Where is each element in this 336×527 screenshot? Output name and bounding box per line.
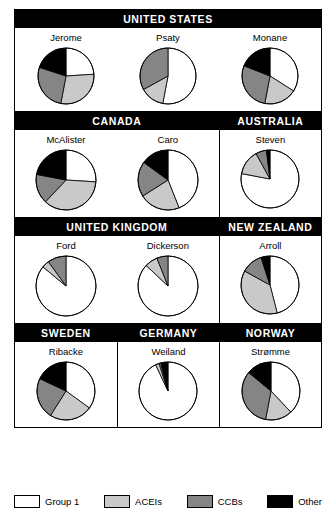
pie-chart: [139, 47, 197, 105]
study-strip: Steven: [220, 130, 321, 217]
legend: Group 1ACEIsCCBsOther: [14, 495, 322, 508]
country-header: NEW ZEALAND: [220, 218, 321, 236]
study-strip: JeromePsatyMonane: [15, 28, 321, 111]
country-block-germany: GERMANYWeiland: [117, 324, 219, 427]
legend-swatch-group1: [14, 495, 40, 508]
legend-label: ACEIs: [135, 496, 162, 507]
pie-wrap: [37, 47, 95, 105]
study-cell: Monane: [219, 28, 321, 111]
study-cell: Strømme: [220, 342, 321, 427]
study-label: Jerome: [50, 32, 82, 44]
country-header: UNITED STATES: [15, 10, 321, 28]
study-label: McAlister: [46, 134, 85, 146]
country-block-united-states: UNITED STATESJeromePsatyMonane: [15, 10, 321, 111]
country-row: SWEDENRibackeGERMANYWeilandNORWAYStrømme: [15, 323, 321, 427]
study-label: Ribacke: [49, 346, 83, 358]
pie-wrap: [36, 361, 96, 421]
study-cell: Ford: [15, 236, 117, 323]
study-label: Caro: [158, 134, 179, 146]
pie-chart: [137, 255, 199, 317]
pie-wrap: [240, 255, 300, 315]
study-label: Steven: [256, 134, 286, 146]
legend-label: Group 1: [45, 496, 79, 507]
pie-chart: [241, 47, 299, 105]
study-label: Weiland: [151, 346, 185, 358]
country-panel-grid: UNITED STATESJeromePsatyMonaneCANADAMcAl…: [14, 9, 322, 428]
pie-slice: [36, 150, 65, 180]
study-strip: McAlisterCaro: [15, 130, 219, 217]
pie-wrap: [35, 149, 97, 211]
study-cell: Weiland: [118, 342, 219, 427]
legend-item-ccb: CCBs: [187, 495, 243, 508]
study-label: Monane: [253, 32, 287, 44]
study-cell: Caro: [117, 130, 219, 217]
legend-swatch-other: [267, 495, 293, 508]
legend-label: CCBs: [218, 496, 243, 507]
pie-wrap: [241, 47, 299, 105]
pie-chart: [35, 255, 97, 317]
country-block-norway: NORWAYStrømme: [219, 324, 321, 427]
legend-item-group1: Group 1: [14, 495, 79, 508]
country-header: GERMANY: [118, 324, 219, 342]
country-block-new-zealand: NEW ZEALANDArroll: [219, 218, 321, 323]
pie-chart: [138, 361, 198, 421]
pie-wrap: [240, 149, 300, 209]
pie-wrap: [137, 149, 199, 211]
study-cell: Ribacke: [15, 342, 117, 427]
pie-wrap: [241, 361, 301, 421]
country-row: CANADAMcAlisterCaroAUSTRALIASteven: [15, 111, 321, 217]
country-header: SWEDEN: [15, 324, 117, 342]
study-strip: Weiland: [118, 342, 219, 427]
legend-swatch-ccb: [187, 495, 213, 508]
country-block-canada: CANADAMcAlisterCaro: [15, 112, 219, 217]
legend-label: Other: [298, 496, 322, 507]
pie-wrap: [137, 255, 199, 317]
pie-slice: [66, 150, 96, 182]
study-cell: Jerome: [15, 28, 117, 111]
study-strip: Strømme: [220, 342, 321, 427]
country-header: CANADA: [15, 112, 219, 130]
country-header: NORWAY: [220, 324, 321, 342]
legend-swatch-acei: [104, 495, 130, 508]
figure-panel: UNITED STATESJeromePsatyMonaneCANADAMcAl…: [0, 0, 336, 527]
study-label: Strømme: [251, 346, 290, 358]
country-header: AUSTRALIA: [220, 112, 321, 130]
study-strip: Arroll: [220, 236, 321, 323]
study-cell: Psaty: [117, 28, 219, 111]
country-block-australia: AUSTRALIASteven: [219, 112, 321, 217]
study-strip: Ribacke: [15, 342, 117, 427]
study-cell: Dickerson: [117, 236, 219, 323]
country-block-united-kingdom: UNITED KINGDOMFordDickerson: [15, 218, 219, 323]
pie-wrap: [138, 361, 198, 421]
country-row: UNITED STATESJeromePsatyMonane: [15, 10, 321, 111]
pie-chart: [240, 149, 300, 209]
country-row: UNITED KINGDOMFordDickersonNEW ZEALANDAr…: [15, 217, 321, 323]
pie-chart: [137, 149, 199, 211]
study-cell: McAlister: [15, 130, 117, 217]
study-label: Arroll: [259, 240, 281, 252]
study-cell: Arroll: [220, 236, 321, 323]
study-label: Dickerson: [147, 240, 189, 252]
pie-wrap: [139, 47, 197, 105]
study-strip: FordDickerson: [15, 236, 219, 323]
pie-chart: [241, 361, 301, 421]
pie-chart: [36, 361, 96, 421]
pie-chart: [35, 149, 97, 211]
study-label: Psaty: [156, 32, 180, 44]
study-label: Ford: [56, 240, 76, 252]
study-cell: Steven: [220, 130, 321, 217]
pie-chart: [240, 255, 300, 315]
country-block-sweden: SWEDENRibacke: [15, 324, 117, 427]
country-header: UNITED KINGDOM: [15, 218, 219, 236]
legend-item-other: Other: [267, 495, 322, 508]
pie-chart: [37, 47, 95, 105]
pie-wrap: [35, 255, 97, 317]
legend-item-acei: ACEIs: [104, 495, 162, 508]
